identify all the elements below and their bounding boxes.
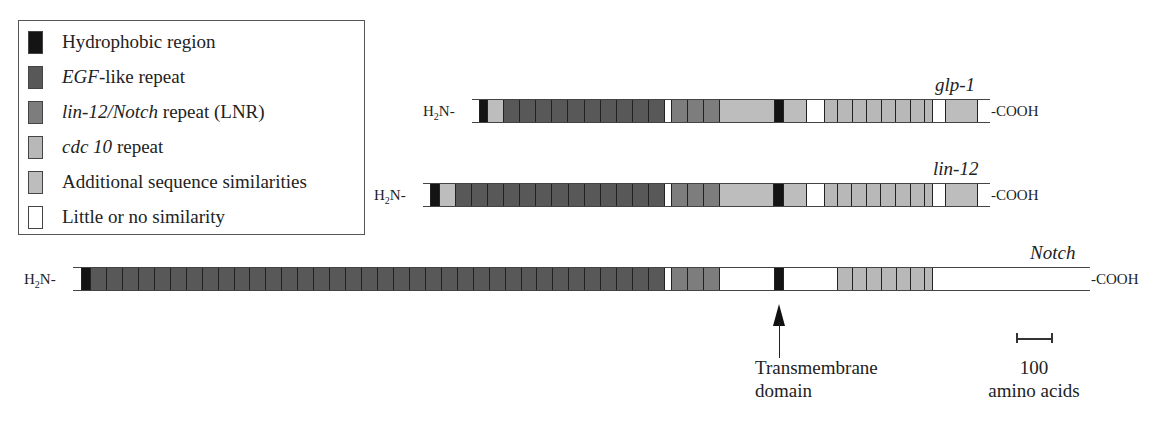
- repeat-divider: [551, 100, 552, 122]
- domain-none: [664, 100, 671, 122]
- repeat-divider: [616, 100, 617, 122]
- domain-additional: [945, 184, 977, 206]
- repeat-divider: [521, 268, 522, 290]
- repeat-divider: [924, 100, 925, 122]
- repeat-divider: [519, 184, 520, 206]
- repeat-divider: [441, 268, 442, 290]
- domain-additional: [945, 100, 977, 122]
- repeat-divider: [924, 268, 925, 290]
- transmembrane-label-line1: Transmembrane: [755, 356, 878, 379]
- repeat-divider: [457, 268, 458, 290]
- repeat-divider: [881, 268, 882, 290]
- hydrophobic-swatch-icon: [28, 31, 43, 54]
- protein-bar-glp-1: [472, 99, 990, 123]
- additional-swatch-icon: [28, 171, 43, 194]
- lnr-swatch-icon: [28, 101, 43, 124]
- repeat-divider: [600, 184, 601, 206]
- repeat-divider: [281, 268, 282, 290]
- repeat-divider: [106, 268, 107, 290]
- legend: Hydrophobic regionEGF-like repeatlin-12/…: [18, 20, 365, 235]
- scale-value: 100: [986, 356, 1082, 379]
- legend-item-cdc10: cdc 10 repeat: [28, 135, 163, 159]
- repeat-divider: [866, 184, 867, 206]
- domain-none: [472, 100, 479, 122]
- repeat-divider: [910, 100, 911, 122]
- gene-label-notch: Notch: [1030, 242, 1075, 264]
- repeat-divider: [584, 268, 585, 290]
- repeat-divider: [122, 268, 123, 290]
- repeat-divider: [249, 268, 250, 290]
- repeat-divider: [924, 184, 925, 206]
- legend-item-lnr: lin-12/Notch repeat (LNR): [28, 100, 265, 124]
- repeat-divider: [600, 268, 601, 290]
- repeat-divider: [473, 268, 474, 290]
- domain-lnr: [671, 184, 719, 206]
- egf-swatch-icon: [28, 66, 43, 89]
- legend-item-hydrophobic: Hydrophobic region: [28, 30, 216, 54]
- domain-none: [806, 184, 824, 206]
- repeat-divider: [567, 100, 568, 122]
- legend-label: cdc 10 repeat: [62, 136, 163, 158]
- repeat-divider: [600, 100, 601, 122]
- c-terminus-label: -COOH: [991, 183, 1039, 207]
- domain-none: [423, 184, 430, 206]
- none-swatch-icon: [28, 206, 43, 229]
- repeat-divider: [881, 100, 882, 122]
- repeat-divider: [234, 268, 235, 290]
- repeat-divider: [880, 184, 881, 206]
- repeat-divider: [648, 184, 649, 206]
- repeat-divider: [648, 100, 649, 122]
- domain-lnr: [671, 268, 719, 290]
- repeat-divider: [186, 268, 187, 290]
- legend-item-additional: Additional sequence similarities: [28, 170, 307, 194]
- domain-additional: [719, 184, 773, 206]
- repeat-divider: [503, 184, 504, 206]
- domain-additional: [719, 100, 774, 122]
- domain-none: [806, 100, 824, 122]
- repeat-divider: [568, 268, 569, 290]
- domain-cdc10: [824, 184, 932, 206]
- domain-hydrophobic: [81, 268, 90, 290]
- domain-hydrophobic: [479, 100, 487, 122]
- repeat-divider: [536, 268, 537, 290]
- repeat-divider: [837, 184, 838, 206]
- protein-bar-notch: [73, 267, 1090, 291]
- repeat-divider: [361, 268, 362, 290]
- domain-additional: [783, 184, 806, 206]
- repeat-divider: [535, 184, 536, 206]
- gene-label-glp-1: glp-1: [935, 74, 975, 96]
- domain-hydrophobic: [773, 184, 783, 206]
- domain-none: [932, 184, 945, 206]
- domain-none: [932, 100, 945, 122]
- repeat-divider: [568, 184, 569, 206]
- domain-none: [664, 184, 671, 206]
- repeat-divider: [345, 268, 346, 290]
- repeat-divider: [895, 184, 896, 206]
- scale-bar: [1016, 338, 1052, 340]
- gene-label-lin-12: lin-12: [933, 158, 978, 180]
- repeat-divider: [265, 268, 266, 290]
- legend-item-egf: EGF-like repeat: [28, 65, 185, 89]
- domain-hydrophobic: [774, 100, 783, 122]
- repeat-divider: [852, 268, 853, 290]
- repeat-divider: [866, 268, 867, 290]
- repeat-divider: [519, 100, 520, 122]
- repeat-divider: [703, 184, 704, 206]
- repeat-divider: [584, 184, 585, 206]
- c-terminus-label: -COOH: [991, 99, 1039, 123]
- repeat-divider: [138, 268, 139, 290]
- transmembrane-arrow-shaft: [779, 322, 781, 358]
- legend-label: EGF-like repeat: [62, 66, 185, 88]
- repeat-divider: [393, 268, 394, 290]
- domain-none: [977, 184, 990, 206]
- domain-hydrophobic: [430, 184, 439, 206]
- scale-bar-right-tick: [1051, 333, 1053, 343]
- transmembrane-label: Transmembrane domain: [755, 356, 878, 402]
- scale-bar-left-tick: [1016, 333, 1018, 343]
- repeat-divider: [837, 100, 838, 122]
- repeat-divider: [703, 100, 704, 122]
- repeat-divider: [687, 184, 688, 206]
- domain-none: [932, 268, 1090, 290]
- repeat-divider: [632, 268, 633, 290]
- repeat-divider: [377, 268, 378, 290]
